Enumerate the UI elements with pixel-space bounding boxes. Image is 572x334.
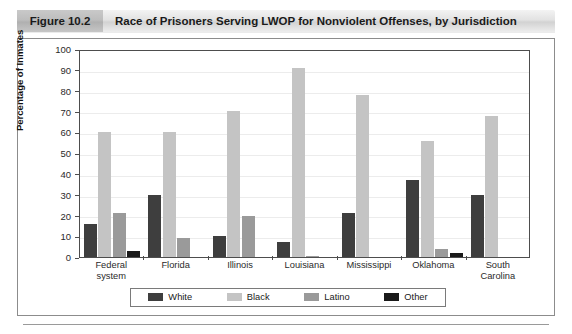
- x-axis-label: Illinois: [208, 260, 272, 271]
- bar: [450, 253, 463, 257]
- y-axis-tick-label: 70: [60, 107, 75, 117]
- x-axis-label-line: system: [79, 271, 143, 282]
- bar: [213, 236, 226, 257]
- bar: [127, 251, 140, 257]
- bar-group: [338, 51, 402, 257]
- x-axis-tick-mark: [272, 256, 273, 260]
- x-axis-tick-mark: [337, 256, 338, 260]
- legend-label: White: [168, 293, 192, 302]
- bar-group: [209, 51, 273, 257]
- x-axis-label-line: Mississippi: [337, 260, 401, 271]
- chart-legend: WhiteBlackLatinoOther: [130, 288, 446, 307]
- y-axis-ticks: 1009080706050403020100: [18, 50, 79, 258]
- legend-label: Latino: [324, 293, 349, 302]
- y-axis-tick-label: 90: [60, 66, 75, 76]
- legend-item: Black: [227, 293, 270, 302]
- x-axis-label-line: Florida: [143, 260, 207, 271]
- x-axis-label: Louisiana: [272, 260, 336, 271]
- bar: [98, 132, 111, 257]
- x-axis-label: Federalsystem: [79, 260, 143, 282]
- legend-swatch: [304, 293, 319, 301]
- x-axis-tick-mark: [143, 256, 144, 260]
- bar: [277, 242, 290, 257]
- legend-swatch: [384, 293, 399, 301]
- x-axis-label-line: Louisiana: [272, 260, 336, 271]
- bottom-divider-rule: [23, 324, 549, 325]
- bar: [356, 95, 369, 257]
- figure-number-label: Figure 10.2: [30, 15, 91, 27]
- y-axis-tick-label: 0: [66, 253, 75, 263]
- bar: [306, 256, 319, 257]
- legend-item: White: [148, 293, 192, 302]
- x-axis-label-line: Carolina: [466, 271, 530, 282]
- bar: [113, 213, 126, 257]
- y-axis-tick-label: 100: [55, 45, 75, 55]
- y-axis-tick-label: 10: [60, 232, 75, 242]
- x-axis-tick-mark: [401, 256, 402, 260]
- y-axis-tick-label: 80: [60, 86, 75, 96]
- y-axis-tick-label: 40: [60, 170, 75, 180]
- chart-frame: Percentage of Inmates 100908070605040302…: [17, 38, 555, 316]
- bar: [227, 111, 240, 257]
- legend-swatch: [227, 293, 242, 301]
- bar: [421, 141, 434, 257]
- bar: [84, 224, 97, 257]
- figure-number-box: Figure 10.2: [17, 10, 103, 32]
- bar-group: [467, 51, 531, 257]
- x-axis-tick-mark: [466, 256, 467, 260]
- bar: [292, 68, 305, 257]
- x-axis-label: SouthCarolina: [466, 260, 530, 282]
- x-axis-label: Florida: [143, 260, 207, 271]
- y-axis-tick-label: 60: [60, 128, 75, 138]
- bar-group: [402, 51, 466, 257]
- x-axis-label-line: South: [466, 260, 530, 271]
- legend-item: Other: [384, 293, 427, 302]
- x-axis-label: Mississippi: [337, 260, 401, 271]
- bar: [163, 132, 176, 257]
- figure-title: Race of Prisoners Serving LWOP for Nonvi…: [103, 10, 517, 32]
- x-axis-label-line: Illinois: [208, 260, 272, 271]
- x-axis-label-line: Federal: [79, 260, 143, 271]
- x-axis-label-line: Oklahoma: [401, 260, 465, 271]
- bar: [485, 116, 498, 257]
- bar: [242, 216, 255, 257]
- figure-header-bar: Figure 10.2 Race of Prisoners Serving LW…: [17, 10, 555, 32]
- figure-title-text: Race of Prisoners Serving LWOP for Nonvi…: [115, 15, 517, 27]
- bars-layer: [80, 51, 529, 257]
- legend-label: Black: [247, 293, 270, 302]
- bar: [342, 213, 355, 257]
- bar-group: [80, 51, 144, 257]
- legend-label: Other: [404, 293, 427, 302]
- bar: [148, 195, 161, 257]
- bar: [406, 180, 419, 257]
- y-axis-tick-label: 30: [60, 190, 75, 200]
- legend-swatch: [148, 293, 163, 301]
- y-axis-tick-label: 50: [60, 149, 75, 159]
- x-axis-label: Oklahoma: [401, 260, 465, 271]
- bar-group: [273, 51, 337, 257]
- bar: [471, 195, 484, 257]
- plot-area: [79, 50, 530, 258]
- y-axis-tick-label: 20: [60, 211, 75, 221]
- x-axis-tick-mark: [208, 256, 209, 260]
- bar: [177, 238, 190, 257]
- legend-item: Latino: [304, 293, 349, 302]
- bar: [435, 249, 448, 257]
- bar-group: [144, 51, 208, 257]
